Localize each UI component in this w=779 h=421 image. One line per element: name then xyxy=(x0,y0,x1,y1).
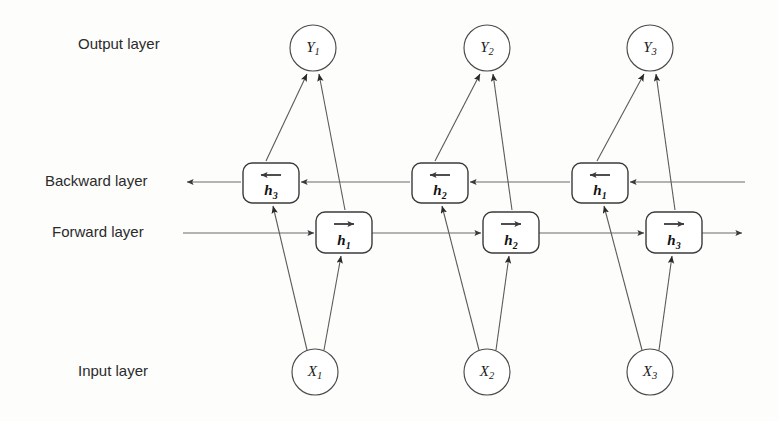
backward-cell-h1[interactable]: h1 xyxy=(572,163,628,203)
edge-x1-to-backward-h3 xyxy=(273,206,307,350)
input-node-x1[interactable]: X1 xyxy=(292,349,338,395)
output-layer-nodes: Y1 Y2 Y3 xyxy=(290,25,673,71)
input-node-x2[interactable]: X2 xyxy=(464,349,510,395)
edge-x1-to-forward-h1 xyxy=(324,256,341,350)
edge-forward-h2-to-y2 xyxy=(493,74,512,210)
edge-backward-h2-to-y2 xyxy=(435,74,480,161)
label-output-layer: Output layer xyxy=(78,35,160,52)
edge-forward-h1-to-y1 xyxy=(319,74,345,210)
backward-layer-cells: h3 h2 h1 xyxy=(243,163,628,203)
forward-cell-h3[interactable]: h3 xyxy=(646,212,702,253)
edge-backward-h3-to-y1 xyxy=(266,74,307,161)
input-layer-nodes: X1 X2 X3 xyxy=(292,349,673,395)
forward-cell-h2[interactable]: h2 xyxy=(483,212,539,253)
edge-forward-h3-to-y3 xyxy=(656,74,675,210)
input-node-x3[interactable]: X3 xyxy=(627,349,673,395)
forward-cell-h1[interactable]: h1 xyxy=(316,212,372,253)
output-node-y2[interactable]: Y2 xyxy=(464,25,510,71)
diagram-canvas: Output layer Backward layer Forward laye… xyxy=(0,0,779,421)
label-backward-layer: Backward layer xyxy=(45,172,148,189)
label-input-layer: Input layer xyxy=(78,362,148,379)
label-forward-layer: Forward layer xyxy=(52,223,144,240)
edge-backward-h1-to-y3 xyxy=(597,74,644,161)
backward-cell-h2[interactable]: h2 xyxy=(412,163,468,203)
edge-x2-to-backward-h2 xyxy=(442,206,479,350)
backward-cell-h3[interactable]: h3 xyxy=(243,163,299,203)
edge-x3-to-backward-h1 xyxy=(604,206,642,350)
edge-x3-to-forward-h3 xyxy=(659,256,672,350)
layer-label-group: Output layer Backward layer Forward laye… xyxy=(45,35,160,379)
edge-x2-to-forward-h2 xyxy=(496,256,509,350)
output-node-y3[interactable]: Y3 xyxy=(627,25,673,71)
bidirectional-rnn-diagram: Output layer Backward layer Forward laye… xyxy=(0,0,779,421)
output-node-y1[interactable]: Y1 xyxy=(290,25,336,71)
